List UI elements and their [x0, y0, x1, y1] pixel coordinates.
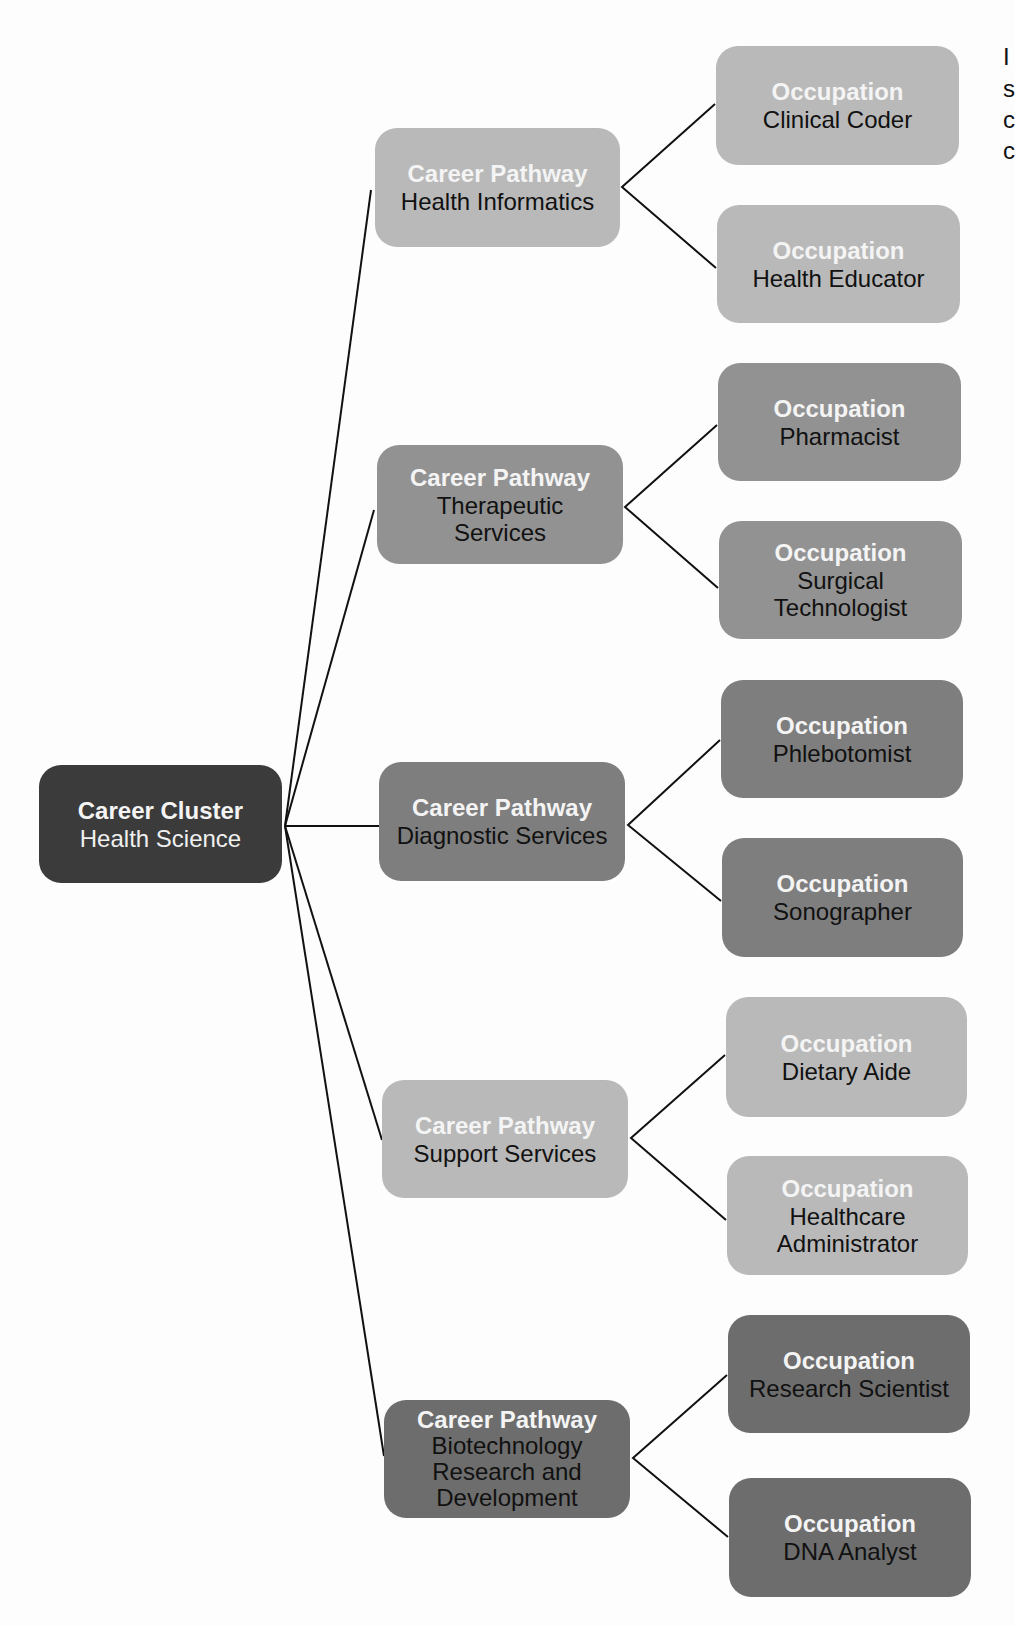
pathway-kind-label: Career Pathway — [407, 160, 587, 188]
occupation-node-pharmacist: Occupation Pharmacist — [718, 363, 961, 481]
occupation-kind-label: Occupation — [776, 712, 908, 740]
occupation-node-clinical-coder: Occupation Clinical Coder — [716, 46, 959, 165]
pathway-name-label: Support Services — [414, 1140, 597, 1167]
occupation-node-healthcare-administrator: Occupation Healthcare Administrator — [727, 1156, 968, 1275]
career-cluster-node: Career Cluster Health Science — [39, 765, 282, 883]
occupation-node-dietary-aide: Occupation Dietary Aide — [726, 997, 967, 1117]
pathway-node-therapeutic-services: Career Pathway Therapeutic Services — [377, 445, 623, 564]
occupation-name-label: Health Educator — [752, 265, 924, 292]
occupation-node-phlebotomist: Occupation Phlebotomist — [721, 680, 963, 798]
occupation-name-label: Sonographer — [773, 898, 912, 925]
occupation-node-health-educator: Occupation Health Educator — [717, 205, 960, 323]
cluster-kind-label: Career Cluster — [78, 797, 243, 825]
pathway-kind-label: Career Pathway — [415, 1112, 595, 1140]
cropped-text-fragment: c — [1003, 108, 1015, 132]
occupation-name-label: Healthcare Administrator — [777, 1203, 918, 1257]
pathway-node-support-services: Career Pathway Support Services — [382, 1080, 628, 1198]
occupation-node-surgical-technologist: Occupation Surgical Technologist — [719, 521, 962, 639]
cluster-name-label: Health Science — [80, 825, 241, 852]
occupation-node-sonographer: Occupation Sonographer — [722, 838, 963, 957]
occupation-kind-label: Occupation — [774, 539, 906, 567]
occupation-kind-label: Occupation — [773, 395, 905, 423]
occupation-kind-label: Occupation — [771, 78, 903, 106]
occupation-kind-label: Occupation — [781, 1175, 913, 1203]
occupation-node-research-scientist: Occupation Research Scientist — [728, 1315, 970, 1433]
occupation-name-label: Dietary Aide — [782, 1058, 911, 1085]
cropped-text-fragment: c — [1003, 139, 1015, 163]
occupation-kind-label: Occupation — [780, 1030, 912, 1058]
occupation-kind-label: Occupation — [776, 870, 908, 898]
cropped-text-fragment: I — [1003, 45, 1010, 69]
occupation-name-label: Pharmacist — [779, 423, 899, 450]
occupation-kind-label: Occupation — [772, 237, 904, 265]
occupation-node-dna-analyst: Occupation DNA Analyst — [729, 1478, 971, 1597]
pathway-name-label: Therapeutic Services — [417, 492, 583, 546]
pathway-kind-label: Career Pathway — [412, 794, 592, 822]
pathway-kind-label: Career Pathway — [417, 1407, 597, 1433]
cropped-text-fragment: s — [1003, 77, 1015, 101]
pathway-node-diagnostic-services: Career Pathway Diagnostic Services — [379, 762, 625, 881]
pathway-kind-label: Career Pathway — [410, 464, 590, 492]
occupation-name-label: DNA Analyst — [783, 1538, 916, 1565]
occupation-kind-label: Occupation — [784, 1510, 916, 1538]
pathway-node-biotechnology: Career Pathway Biotechnology Research an… — [384, 1400, 630, 1518]
occupation-kind-label: Occupation — [783, 1347, 915, 1375]
occupation-name-label: Surgical Technologist — [769, 567, 912, 621]
pathway-name-label: Health Informatics — [401, 188, 594, 215]
pathway-node-health-informatics: Career Pathway Health Informatics — [375, 128, 620, 247]
pathway-name-label: Biotechnology Research and Development — [424, 1433, 590, 1511]
occupation-name-label: Clinical Coder — [763, 106, 912, 133]
occupation-name-label: Phlebotomist — [773, 740, 912, 767]
occupation-name-label: Research Scientist — [749, 1375, 949, 1402]
pathway-name-label: Diagnostic Services — [397, 822, 608, 849]
